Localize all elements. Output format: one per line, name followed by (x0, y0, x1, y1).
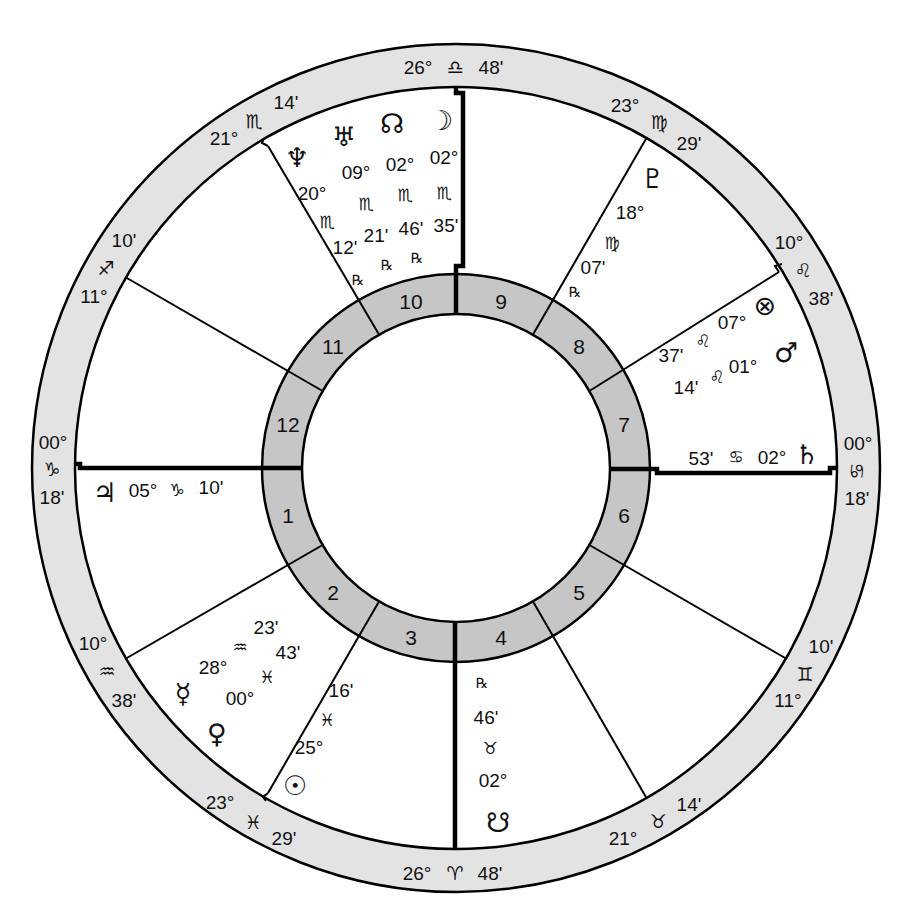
scorpio-icon: ♏ (436, 183, 451, 203)
cusp-minutes: 10' (809, 636, 834, 657)
planet-minutes: 16' (329, 680, 354, 701)
capricorn-icon: ♑ (169, 480, 184, 500)
taurus-icon: ♉ (649, 810, 666, 832)
gemini-icon: ♊ (796, 663, 813, 685)
pisces-icon: ♓ (319, 710, 334, 730)
aquarius-icon: ♒ (232, 637, 247, 657)
cusp-label-4: 26° ♈ 48' (403, 862, 503, 884)
house-number-9: 9 (495, 290, 507, 313)
planet-minutes: 12' (333, 237, 358, 258)
cusp-minutes: 38' (809, 288, 834, 309)
scorpio-icon: ♏ (319, 212, 334, 232)
neptune-icon: ♆ (285, 142, 309, 173)
planet-minutes: 21' (364, 225, 389, 246)
planet-degree: 28° (199, 657, 228, 678)
planet-minutes: 46' (474, 707, 499, 728)
cusp-minutes: 29' (677, 133, 702, 154)
aquarius-icon: ♒ (98, 660, 115, 682)
uranus-icon: ♅ (332, 121, 356, 152)
cusp-minutes: 38' (112, 690, 137, 711)
planet-minutes: 23' (254, 617, 279, 638)
cusp-label-7: 00° ♋ 18' (844, 433, 873, 509)
leo-icon: ♌ (794, 259, 811, 281)
planet-degree: 20° (298, 183, 327, 204)
virgo-icon: ♍ (650, 111, 667, 133)
planet-minutes: 35' (434, 215, 459, 236)
house-number-12: 12 (276, 413, 299, 436)
cusp-degree: 21° (210, 128, 239, 149)
house-number-11: 11 (322, 335, 344, 358)
sun-icon: ☉ (283, 770, 307, 801)
saturn-icon: ♄ (795, 439, 819, 470)
part-of-fortune-icon: ⊗ (754, 290, 777, 321)
cusp-degree: 10° (79, 633, 108, 654)
planet-minutes: 07' (581, 257, 606, 278)
cusp-degree: 23° (206, 792, 235, 813)
cusp-degree: 11° (774, 690, 801, 711)
cusp-degree: 10° (775, 232, 804, 253)
house-number-8: 8 (573, 335, 585, 358)
house-number-2: 2 (327, 581, 339, 604)
house-number-10: 10 (399, 290, 422, 313)
cusp-minutes: 29' (272, 828, 297, 849)
mars-icon: ♂ (774, 337, 798, 368)
planet-degree: 09° (342, 162, 371, 183)
jupiter-icon: ♃ (93, 477, 117, 508)
house-number-6: 6 (618, 504, 630, 527)
capricorn-icon: ♑ (43, 458, 60, 480)
planet-degree: 02° (479, 770, 508, 791)
cancer-icon: ♋ (728, 447, 743, 467)
cancer-icon: ♋ (846, 462, 868, 479)
cusp-minutes: 14' (677, 794, 702, 815)
pluto-icon: ♇ (641, 163, 665, 194)
cusp-degree: 11° (80, 286, 107, 307)
virgo-icon: ♍ (604, 233, 619, 253)
natal-chart-wheel: 1 2 3 4 5 6 7 8 9 10 11 12 00° ♑ 18' 10°… (0, 0, 904, 915)
house-number-7: 7 (618, 413, 630, 436)
planet-degree: 02° (430, 147, 459, 168)
planet-minutes: 46' (399, 218, 424, 239)
house-number-1: 1 (282, 504, 294, 527)
leo-icon: ♌ (709, 367, 724, 387)
cusp-degree: 23° (611, 95, 640, 116)
retrograde-icon: ℞ (352, 272, 365, 288)
retrograde-icon: ℞ (411, 250, 424, 266)
planet-degree: 01° (729, 356, 758, 377)
planet-minutes: 43' (276, 642, 301, 663)
cusp-label-10: 26° ♎ 48' (404, 56, 504, 78)
aries-icon: ♈ (446, 862, 463, 884)
planet-minutes: 53' (689, 448, 714, 469)
planet-degree: 07° (718, 312, 747, 333)
pisces-icon: ♓ (259, 667, 274, 687)
cusp-degree: 00° (844, 433, 873, 454)
taurus-icon: ♉ (482, 738, 497, 758)
planet-minutes: 37' (659, 345, 684, 366)
libra-icon: ♎ (446, 56, 463, 78)
cusp-degree: 26° (403, 863, 432, 884)
pisces-icon: ♓ (244, 811, 261, 833)
retrograde-icon: ℞ (381, 257, 394, 273)
leo-icon: ♌ (695, 331, 710, 351)
house-number-5: 5 (573, 581, 585, 604)
house-number-4: 4 (495, 626, 507, 649)
cusp-minutes: 14' (274, 92, 299, 113)
planet-degree: 25° (295, 737, 324, 758)
planet-degree: 02° (758, 447, 787, 468)
planet-degree: 05° (129, 480, 158, 501)
mercury-icon: ☿ (175, 678, 192, 709)
cusp-degree: 00° (39, 432, 68, 453)
scorpio-icon: ♏ (245, 110, 262, 132)
center-circle (302, 314, 610, 622)
venus-icon: ♀ (207, 718, 227, 749)
cusp-degree: 21° (609, 828, 638, 849)
house-number-3: 3 (405, 626, 417, 649)
cusp-degree: 26° (404, 57, 433, 78)
retrograde-icon: ℞ (476, 675, 489, 691)
scorpio-icon: ♏ (397, 185, 412, 205)
cusp-minutes: 18' (40, 487, 65, 508)
planet-minutes: 10' (199, 477, 224, 498)
planet-degree: 00° (226, 688, 255, 709)
north-node-icon: ☊ (380, 108, 404, 139)
south-node-icon: ☋ (486, 807, 510, 838)
cusp-minutes: 48' (479, 57, 504, 78)
